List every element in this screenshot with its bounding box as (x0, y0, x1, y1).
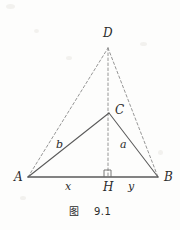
figure-container: A B C D H b a x y 图 9.1 (0, 0, 180, 230)
segment-label-y: y (128, 181, 134, 192)
vertex-label-A: A (14, 171, 23, 183)
right-angle-mark-at-H (104, 170, 111, 177)
vertex-label-D: D (103, 27, 113, 39)
segment-AC-solid (28, 113, 109, 177)
segment-CB-solid (109, 113, 158, 177)
figure-caption: 图 9.1 (0, 203, 180, 218)
side-label-b: b (56, 139, 63, 150)
segment-label-x: x (65, 181, 71, 192)
side-label-a: a (120, 139, 127, 150)
vertex-label-C: C (115, 104, 124, 116)
vertex-label-B: B (164, 171, 173, 183)
geometry-diagram (0, 0, 180, 230)
vertex-label-H: H (103, 181, 113, 193)
segment-AD-dashed (28, 48, 108, 177)
